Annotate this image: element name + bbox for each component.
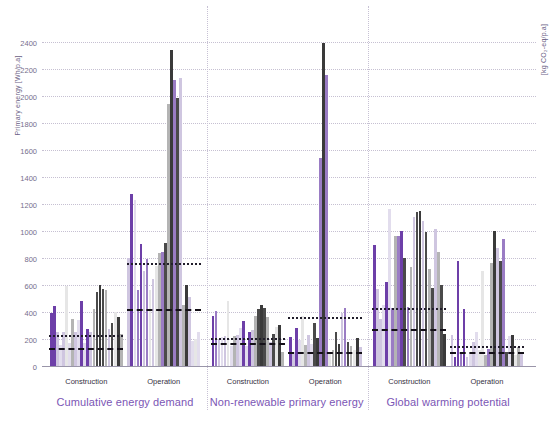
bar bbox=[457, 261, 460, 366]
y-axis-title-right: [kg CO₂-eq/p.a] bbox=[540, 0, 547, 100]
reference-line-dotted bbox=[211, 338, 285, 340]
y-tick-label-400: 400 bbox=[24, 308, 37, 317]
group-separator bbox=[368, 6, 369, 410]
plot-area: 0200400600800100012001400160018002000220… bbox=[42, 28, 536, 366]
reference-line-dotted bbox=[127, 263, 201, 265]
y-tick-label-1800: 1800 bbox=[20, 119, 37, 128]
y-tick-label-0: 0 bbox=[33, 363, 37, 372]
group-label: Global warming potential bbox=[386, 396, 509, 408]
reference-line-dashed bbox=[288, 352, 362, 354]
y-tick-label-200: 200 bbox=[24, 335, 37, 344]
y-tick-label-2000: 2000 bbox=[20, 92, 37, 101]
reference-line-dashed bbox=[372, 329, 446, 331]
bar bbox=[281, 352, 284, 366]
reference-line-dashed bbox=[49, 348, 123, 350]
section-label-operation: Operation bbox=[147, 377, 180, 386]
y-tick-label-1000: 1000 bbox=[20, 227, 37, 236]
bar bbox=[325, 75, 328, 366]
reference-line-dotted bbox=[49, 335, 123, 337]
bar bbox=[359, 347, 362, 366]
section-label-operation: Operation bbox=[309, 377, 342, 386]
reference-line-dashed bbox=[127, 309, 201, 311]
bar bbox=[197, 332, 200, 366]
bar bbox=[520, 353, 523, 366]
section-label-construction: Construction bbox=[65, 377, 107, 386]
group-label: Cumulative energy demand bbox=[57, 396, 194, 408]
y-tick-label-600: 600 bbox=[24, 281, 37, 290]
y-tick-label-1200: 1200 bbox=[20, 200, 37, 209]
reference-line-dashed bbox=[450, 352, 524, 354]
gridline-0: 0 bbox=[42, 366, 536, 367]
chart-root: Primary energy [Wh/p.a] [kg CO₂-eq/p.a] … bbox=[0, 0, 557, 428]
y-tick-label-800: 800 bbox=[24, 254, 37, 263]
reference-line-dotted bbox=[288, 317, 362, 319]
y-tick-label-2200: 2200 bbox=[20, 65, 37, 74]
y-tick-label-1400: 1400 bbox=[20, 173, 37, 182]
group-label: Non-renewable primary energy bbox=[210, 396, 364, 408]
group-separator bbox=[207, 6, 208, 410]
y-tick-label-1600: 1600 bbox=[20, 146, 37, 155]
y-tick-label-2400: 2400 bbox=[20, 38, 37, 47]
reference-line-dashed bbox=[211, 343, 285, 345]
reference-line-dotted bbox=[372, 308, 446, 310]
section-label-construction: Construction bbox=[388, 377, 430, 386]
reference-line-dotted bbox=[450, 346, 524, 348]
section-label-operation: Operation bbox=[470, 377, 503, 386]
section-label-construction: Construction bbox=[227, 377, 269, 386]
bar bbox=[443, 334, 446, 366]
bars-layer bbox=[42, 28, 536, 366]
